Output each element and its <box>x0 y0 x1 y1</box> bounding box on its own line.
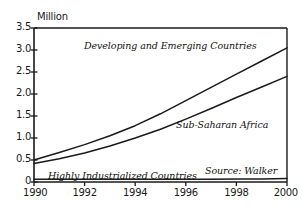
axes <box>34 28 287 182</box>
data-series <box>34 48 287 180</box>
source-note: Source: Walker <box>205 165 277 176</box>
plot-area <box>0 0 303 217</box>
tick-marks <box>31 28 288 186</box>
chart-figure: Million 00.51.01.52.02.53.03.5 199019921… <box>0 0 303 217</box>
series-label-sub-saharan-africa: Sub-Saharan Africa <box>176 119 268 130</box>
series-label-developing-and-emerging-countries: Developing and Emerging Countries <box>84 40 256 51</box>
series-label-highly-industrialized-countries: Highly Industrialized Countries <box>48 170 197 181</box>
